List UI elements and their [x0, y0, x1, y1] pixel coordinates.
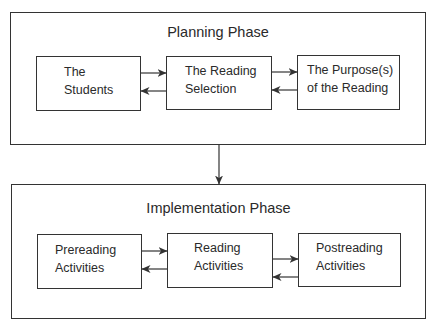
- node-purpose-line1: The Purpose(s): [307, 61, 399, 79]
- node-reading-line1: Reading: [194, 239, 272, 257]
- node-reading-line2: Activities: [194, 257, 272, 275]
- node-postreading-line1: Postreading: [316, 239, 400, 257]
- node-prereading: Prereading Activities: [37, 234, 142, 289]
- node-reading-selection-line2: Selection: [185, 80, 271, 98]
- node-postreading: Postreading Activities: [298, 233, 401, 287]
- implementation-phase-title: Implementation Phase: [12, 200, 425, 216]
- node-reading-selection: The Reading Selection: [166, 56, 272, 110]
- node-purpose-line2: of the Reading: [307, 79, 399, 97]
- node-postreading-line2: Activities: [316, 257, 400, 275]
- node-purpose: The Purpose(s) of the Reading: [297, 55, 400, 110]
- node-prereading-line1: Prereading: [55, 241, 141, 259]
- node-reading: Reading Activities: [167, 233, 273, 288]
- node-students-line1: The: [64, 63, 140, 81]
- node-students-line2: Students: [64, 81, 140, 99]
- node-students: The Students: [36, 56, 141, 111]
- node-reading-selection-line1: The Reading: [185, 62, 271, 80]
- node-prereading-line2: Activities: [55, 259, 141, 277]
- planning-phase-title: Planning Phase: [11, 24, 425, 40]
